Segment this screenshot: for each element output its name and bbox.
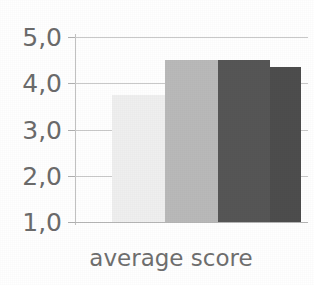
gridline-5: [75, 37, 308, 38]
y-axis-tick-labels: 5,0 4,0 3,0 2,0 1,0: [0, 0, 62, 285]
y-tick-label-3: 3,0: [4, 118, 62, 143]
plot-area: [75, 37, 308, 222]
y-tick-label-2: 2,0: [4, 164, 62, 189]
bar-series-2: [165, 60, 218, 222]
bar-series-1: [112, 95, 165, 222]
bar-series-3: [218, 60, 270, 222]
y-tick-label-5: 5,0: [4, 25, 62, 50]
x-axis-caption: average score: [0, 244, 314, 272]
y-tick-label-4: 4,0: [4, 71, 62, 96]
gridline-1: [75, 222, 308, 223]
y-tick-label-1: 1,0: [4, 210, 62, 235]
bar-series-4: [270, 67, 301, 222]
bar-chart: 5,0 4,0 3,0 2,0 1,0 average score: [0, 0, 314, 285]
